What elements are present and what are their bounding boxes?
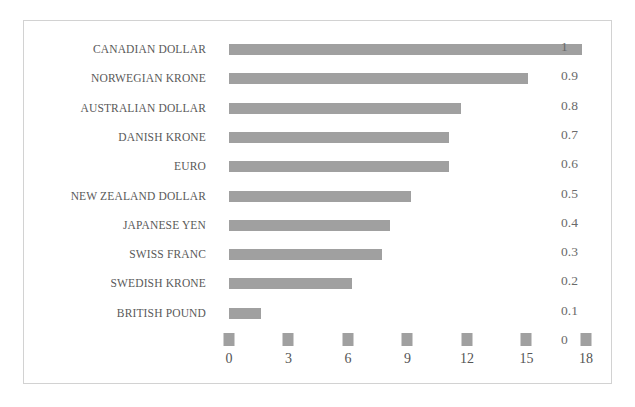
category-label: SWEDISH KRONE [24,277,206,289]
value-axis-tick-label: 0 [226,351,233,367]
category-label: NORWEGIAN KRONE [24,72,206,84]
bar [229,73,528,84]
category-label: AUSTRALIAN DOLLAR [24,102,206,114]
bar [229,249,382,260]
value-axis-tick-label: 12 [460,351,474,367]
bar [229,132,449,143]
value-axis-tick-label: 6 [344,351,351,367]
secondary-axis-tick-label: 1 [561,40,568,53]
secondary-axis-tick-label: 0.1 [561,304,578,317]
value-axis-tick-label: 18 [579,351,593,367]
value-axis-tick-label: 15 [519,351,533,367]
category-label: CANADIAN DOLLAR [24,43,206,55]
category-label: DANISH KRONE [24,131,206,143]
category-label: JAPANESE YEN [24,219,206,231]
bar [229,308,261,319]
value-axis-tick-label: 3 [285,351,292,367]
category-label: EURO [24,160,206,172]
axis-tick-marker [224,333,235,346]
category-label: NEW ZEALAND DOLLAR [24,190,206,202]
secondary-axis-tick-label: 0.3 [561,245,578,258]
value-axis-tick-label: 9 [404,351,411,367]
category-label: BRITISH POUND [24,307,206,319]
axis-tick-marker [521,333,532,346]
bar [229,44,582,55]
bar [229,278,352,289]
axis-tick-marker [283,333,294,346]
secondary-value-axis: 10.90.80.70.60.50.40.30.20.10 [555,21,611,351]
secondary-axis-tick-label: 0.6 [561,157,578,170]
secondary-axis-tick-label: 0 [561,333,568,346]
category-label: SWISS FRANC [24,248,206,260]
secondary-axis-tick-label: 0.7 [561,128,578,141]
category-axis: CANADIAN DOLLARNORWEGIAN KRONEAUSTRALIAN… [24,21,206,321]
secondary-axis-tick-label: 0.8 [561,99,578,112]
bar [229,161,449,172]
value-axis-labels: 0369121518 [206,351,635,375]
chart-frame: CANADIAN DOLLARNORWEGIAN KRONEAUSTRALIAN… [23,20,612,384]
axis-tick-marker [342,333,353,346]
secondary-axis-tick-label: 0.9 [561,69,578,82]
bar [229,220,390,231]
axis-tick-marker [461,333,472,346]
bar [229,103,461,114]
secondary-axis-tick-label: 0.4 [561,216,578,229]
axis-tick-marker [402,333,413,346]
secondary-axis-tick-label: 0.5 [561,187,578,200]
bar [229,191,411,202]
secondary-axis-tick-label: 0.2 [561,274,578,287]
